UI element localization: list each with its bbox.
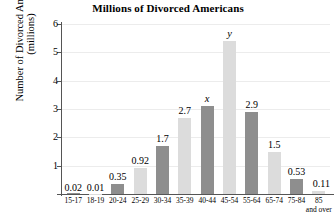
y-tick-label: 5 bbox=[44, 46, 58, 57]
bar-value-label: 0.92 bbox=[125, 155, 155, 166]
bar-value-label: 0.11 bbox=[313, 178, 336, 189]
bar-value-label: 0.53 bbox=[282, 166, 312, 177]
chart-container: Millions of Divorced Americans Number of… bbox=[0, 0, 336, 222]
bar bbox=[67, 193, 80, 194]
plot-area: 0.020.010.350.921.72.7xy2.91.50.530.11 bbox=[62, 24, 330, 194]
bar-value-label: 1.5 bbox=[259, 139, 289, 150]
bar bbox=[111, 184, 124, 194]
y-tick-label: 6 bbox=[44, 18, 58, 29]
y-tick-label: 3 bbox=[44, 103, 58, 114]
y-tick-label: 4 bbox=[44, 75, 58, 86]
bar bbox=[201, 106, 214, 194]
bar bbox=[134, 168, 147, 194]
gridline bbox=[62, 52, 330, 53]
gridline bbox=[62, 81, 330, 82]
bar bbox=[245, 112, 258, 194]
x-axis-line bbox=[57, 194, 334, 195]
bar bbox=[268, 152, 281, 195]
y-tick-label: 2 bbox=[44, 131, 58, 142]
bar-value-label: 1.7 bbox=[148, 133, 178, 144]
y-axis-title-line2: (millions) bbox=[25, 0, 37, 102]
y-tick-label: 1 bbox=[44, 160, 58, 171]
bar-variable-label: x bbox=[192, 93, 222, 104]
x-axis-category-label: 85and over bbox=[303, 196, 335, 214]
bar bbox=[223, 41, 236, 194]
x-axis-category-sublabel: and over bbox=[303, 205, 335, 214]
bar-value-label: 0.01 bbox=[81, 182, 111, 193]
bar bbox=[178, 118, 191, 195]
gridline bbox=[62, 24, 330, 25]
y-axis-title: Number of Divorced Americans (millions) bbox=[13, 0, 37, 119]
bar bbox=[156, 146, 169, 194]
x-axis-labels: 15-1718-1920-2425-2930-3435-3940-4445-54… bbox=[62, 196, 330, 222]
bar-value-label: 2.7 bbox=[170, 105, 200, 116]
bar-variable-label: y bbox=[215, 28, 245, 39]
bar bbox=[312, 191, 325, 194]
bar-value-label: 0.35 bbox=[103, 171, 133, 182]
chart-title: Millions of Divorced Americans bbox=[0, 2, 336, 14]
y-axis-title-line1: Number of Divorced Americans bbox=[14, 0, 25, 102]
bar bbox=[290, 179, 303, 194]
gridline bbox=[62, 137, 330, 138]
bar-value-label: 2.9 bbox=[237, 99, 267, 110]
